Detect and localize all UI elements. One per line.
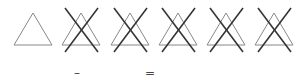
crossed-triangle-icon xyxy=(111,8,149,52)
crossed-triangle-icon xyxy=(159,8,197,52)
triangle-icon xyxy=(14,13,52,45)
crossed-triangle-icon xyxy=(62,8,100,52)
equals-mark: = xyxy=(145,67,155,79)
minus-mark: – xyxy=(74,67,80,79)
crossed-triangle-icon xyxy=(207,8,245,52)
crossed-triangle-icon xyxy=(255,8,293,52)
